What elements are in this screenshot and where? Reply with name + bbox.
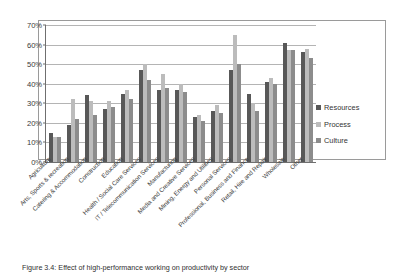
- bar: [291, 50, 295, 162]
- legend-swatch-icon: [316, 105, 321, 110]
- bar-group: [298, 25, 316, 162]
- bar-series-container: [46, 25, 316, 162]
- chart-legend: ResourcesProcessCulture: [316, 103, 394, 153]
- bar: [183, 92, 187, 162]
- bar-group: [82, 25, 100, 162]
- legend-item[interactable]: Process: [316, 120, 394, 129]
- bar: [309, 58, 313, 162]
- legend-item[interactable]: Resources: [316, 103, 394, 112]
- bar: [93, 115, 97, 162]
- bar-group: [64, 25, 82, 162]
- bar: [273, 84, 277, 162]
- bar-group: [244, 25, 262, 162]
- y-axis-tick-label: 20%: [27, 118, 42, 127]
- y-axis-tick-label: 50%: [27, 60, 42, 69]
- bar-group: [262, 25, 280, 162]
- y-axis-tick-label: 30%: [27, 99, 42, 108]
- bar: [255, 111, 259, 162]
- legend-item-label: Resources: [324, 103, 359, 112]
- bar-group: [190, 25, 208, 162]
- bar: [201, 121, 205, 162]
- figure: 0%10%20%30%40%50%60%70% AgricultureArts,…: [0, 0, 396, 273]
- y-axis-tick-label: 60%: [27, 40, 42, 49]
- bar: [75, 119, 79, 162]
- bar-group: [154, 25, 172, 162]
- bar-group: [172, 25, 190, 162]
- bar-group: [136, 25, 154, 162]
- legend-swatch-icon: [316, 138, 321, 143]
- bar: [165, 88, 169, 162]
- bar: [111, 107, 115, 162]
- bar-group: [100, 25, 118, 162]
- bar-group: [208, 25, 226, 162]
- bar-group: [46, 25, 64, 162]
- bar-group: [226, 25, 244, 162]
- bar: [147, 80, 151, 162]
- y-axis-tick-label: 70%: [27, 21, 42, 30]
- bar-group: [118, 25, 136, 162]
- bar: [129, 99, 133, 162]
- legend-item-label: Process: [324, 120, 351, 129]
- plot: 0%10%20%30%40%50%60%70%: [46, 25, 316, 162]
- legend-swatch-icon: [316, 122, 321, 127]
- y-axis-tick-label: 40%: [27, 79, 42, 88]
- figure-caption: Figure 3.4: Effect of high-performance w…: [22, 263, 382, 272]
- y-axis-tick-label: 10%: [27, 138, 42, 147]
- bar: [219, 113, 223, 162]
- legend-item-label: Culture: [324, 136, 348, 145]
- legend-item[interactable]: Culture: [316, 136, 394, 145]
- bar: [237, 64, 241, 162]
- bar-group: [280, 25, 298, 162]
